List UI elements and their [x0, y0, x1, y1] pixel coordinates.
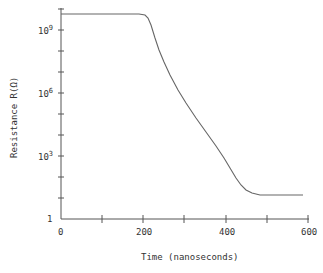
x-tick-600: 600	[301, 227, 317, 237]
x-axis-label: Time (nanoseconds)	[141, 252, 239, 262]
y-tick-1e9: 109	[38, 24, 53, 36]
x-tick-200: 200	[136, 227, 152, 237]
y-tick-1e3: 103	[38, 150, 53, 162]
y-tick-1: 1	[47, 214, 52, 224]
x-tick-400: 400	[219, 227, 235, 237]
y-tick-1e6: 106	[38, 87, 53, 99]
y-axis-label: Resistance R(Ω)	[9, 77, 19, 158]
chart: 0 200 400 600 1 103 106 109 Time (nanose…	[0, 0, 323, 273]
x-tick-0: 0	[58, 227, 63, 237]
resistance-curve	[61, 14, 303, 195]
